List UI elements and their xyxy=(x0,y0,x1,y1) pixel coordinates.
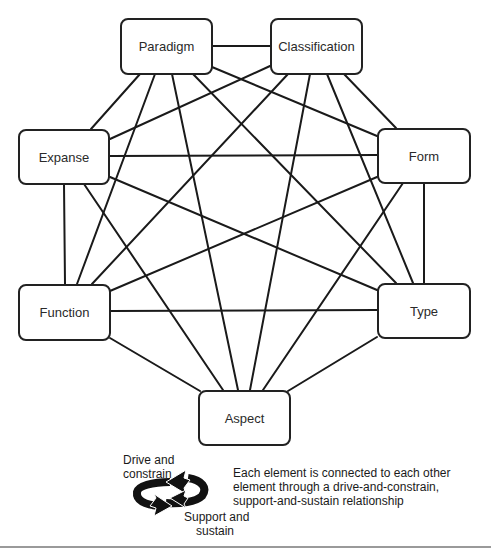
edge-classification-form xyxy=(344,74,396,128)
node-function: Function xyxy=(18,284,111,341)
edge-function-type xyxy=(110,310,377,311)
node-classification: Classification xyxy=(270,18,363,75)
edge-paradigm-expanse xyxy=(91,74,140,129)
node-label: Type xyxy=(410,304,438,319)
legend-top-label-line1: Drive and xyxy=(123,453,174,467)
edge-classification-aspect xyxy=(250,74,310,390)
node-type: Type xyxy=(377,283,471,339)
edge-expanse-function xyxy=(64,184,65,284)
bottom-divider xyxy=(0,546,491,548)
legend-bottom-label-line2: sustain xyxy=(184,524,246,538)
node-label: Expanse xyxy=(39,150,90,165)
edge-paradigm-type xyxy=(193,74,396,283)
legend-description: Each element is connected to each other … xyxy=(233,466,473,508)
node-label: Aspect xyxy=(225,411,265,426)
edge-type-aspect xyxy=(288,337,377,391)
node-form: Form xyxy=(377,128,471,184)
legend-bottom-label: Support and sustain xyxy=(184,510,246,538)
node-paradigm: Paradigm xyxy=(120,18,213,75)
node-label: Form xyxy=(409,149,439,164)
edge-classification-function xyxy=(92,74,288,284)
node-label: Function xyxy=(40,305,90,320)
edge-paradigm-form xyxy=(212,67,377,136)
edge-expanse-form xyxy=(110,155,377,156)
edge-function-aspect xyxy=(110,338,200,391)
node-expanse: Expanse xyxy=(18,129,110,185)
legend-bottom-label-line1: Support and xyxy=(184,510,246,524)
node-aspect: Aspect xyxy=(198,390,291,446)
edge-paradigm-aspect xyxy=(172,74,238,390)
node-label: Paradigm xyxy=(139,39,195,54)
node-label: Classification xyxy=(278,39,355,54)
